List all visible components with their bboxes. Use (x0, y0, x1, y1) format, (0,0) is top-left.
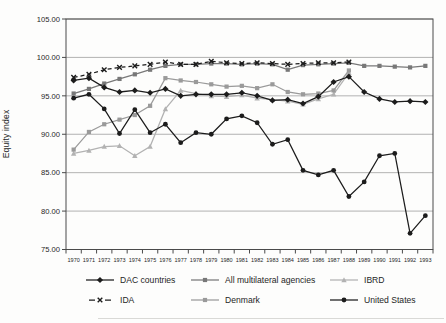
square-marker-icon (87, 87, 91, 91)
circle-marker-icon (117, 131, 122, 136)
diamond-marker-icon (97, 277, 103, 283)
series-line-united-states (74, 94, 426, 233)
legend-item-ibrd: IBRD (330, 272, 385, 288)
square-marker-icon (179, 78, 183, 82)
y-tick-label: 95.00 (41, 92, 60, 101)
circle-marker-icon (239, 113, 244, 118)
square-marker-icon (377, 64, 381, 68)
legend-label-united-states: United States (364, 295, 416, 305)
legend-label-dac-countries: DAC countries (120, 275, 175, 285)
circle-marker-icon (132, 107, 137, 112)
x-tick-label: 1977 (175, 257, 187, 263)
x-tick-label: 1981 (236, 257, 248, 263)
circle-marker-icon (408, 231, 413, 236)
ida-legend-marker-icon (86, 294, 114, 306)
legend-item-ida: IDA (86, 292, 134, 308)
square-marker-icon (133, 72, 137, 76)
x-tick-label: 1983 (266, 257, 278, 263)
x-tick-label: 1988 (343, 257, 355, 263)
triangle-marker-icon (147, 144, 152, 149)
x-tick-label: 1975 (144, 257, 156, 263)
x-tick-label: 1979 (205, 257, 217, 263)
legend-item-denmark: Denmark (191, 292, 260, 308)
circle-marker-icon (270, 142, 275, 147)
circle-marker-icon (392, 151, 397, 156)
circle-marker-icon (87, 92, 92, 97)
circle-marker-icon (346, 194, 351, 199)
diamond-marker-icon (162, 86, 168, 92)
circle-marker-icon (377, 153, 382, 158)
y-tick-label: 85.00 (41, 168, 60, 177)
x-tick-label: 1978 (190, 257, 202, 263)
x-tick-label: 1973 (113, 257, 125, 263)
circle-marker-icon (331, 168, 336, 173)
square-marker-icon (362, 64, 366, 68)
scan-artifact-line (98, 318, 444, 319)
legend-label-ibrd: IBRD (364, 275, 385, 285)
circle-marker-icon (209, 132, 214, 137)
square-marker-icon (393, 65, 397, 69)
x-tick-label: 1970 (68, 257, 80, 263)
square-marker-icon (203, 278, 207, 282)
x-tick-label: 1990 (373, 257, 385, 263)
circle-marker-icon (301, 168, 306, 173)
square-marker-icon (408, 65, 412, 69)
equity-index-figure: 105.00100.0095.0090.0085.0080.0075.00197… (0, 0, 446, 323)
y-tick-label: 100.00 (37, 53, 60, 62)
series-line-all-multilateral-agencies (74, 63, 426, 94)
square-marker-icon (117, 118, 121, 122)
x-tick-label: 1989 (358, 257, 370, 263)
x-tick-label: 1980 (220, 257, 232, 263)
square-marker-icon (301, 92, 305, 96)
series-line-dac-countries (74, 77, 426, 104)
y-tick-label: 90.00 (41, 130, 60, 139)
diamond-marker-icon (407, 98, 413, 104)
square-marker-icon (347, 68, 351, 72)
ibrd-legend-marker-icon (330, 274, 358, 286)
square-marker-icon (270, 82, 274, 86)
all-multilateral-agencies-legend-marker-icon (191, 274, 219, 286)
x-tick-label: 1984 (282, 257, 294, 263)
square-marker-icon (240, 84, 244, 88)
circle-marker-icon (163, 122, 168, 127)
y-tick-label: 75.00 (41, 245, 60, 254)
square-marker-icon (286, 90, 290, 94)
circle-marker-icon (316, 173, 321, 178)
circle-marker-icon (362, 179, 367, 184)
diamond-marker-icon (147, 90, 153, 96)
denmark-legend-marker-icon (191, 294, 219, 306)
x-tick-label: 1982 (251, 257, 263, 263)
x-tick-label: 1976 (159, 257, 171, 263)
diamond-marker-icon (193, 91, 199, 97)
legend-item-all-multilateral-agencies: All multilateral agencies (191, 272, 315, 288)
square-marker-icon (148, 104, 152, 108)
diamond-marker-icon (422, 99, 428, 105)
square-marker-icon (203, 298, 207, 302)
square-marker-icon (117, 77, 121, 81)
y-tick-label: 105.00 (37, 15, 60, 24)
x-tick-label: 1972 (98, 257, 110, 263)
legend-label-denmark: Denmark (225, 295, 260, 305)
circle-marker-icon (423, 213, 428, 218)
diamond-marker-icon (392, 99, 398, 105)
square-marker-icon (133, 113, 137, 117)
circle-marker-icon (102, 106, 107, 111)
square-marker-icon (163, 76, 167, 80)
square-marker-icon (209, 82, 213, 86)
x-tick-label: 1974 (129, 257, 141, 263)
diamond-marker-icon (132, 87, 138, 93)
diamond-marker-icon (101, 84, 107, 90)
square-marker-icon (224, 85, 228, 89)
legend-item-united-states: United States (330, 292, 416, 308)
diamond-marker-icon (116, 89, 122, 95)
circle-marker-icon (285, 137, 290, 142)
square-marker-icon (102, 122, 106, 126)
y-tick-label: 80.00 (41, 207, 60, 216)
x-tick-label: 1985 (297, 257, 309, 263)
square-marker-icon (423, 64, 427, 68)
square-marker-icon (286, 68, 290, 72)
square-marker-icon (87, 130, 91, 134)
circle-marker-icon (71, 96, 76, 101)
square-marker-icon (72, 91, 76, 95)
circle-marker-icon (148, 130, 153, 135)
